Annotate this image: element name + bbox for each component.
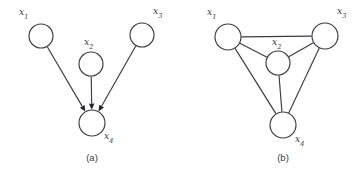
panel-b: x1x2x3x4(b) — [207, 5, 346, 163]
edge-x3-x4 — [289, 48, 320, 113]
edge-x3-x4 — [102, 46, 136, 106]
node-label-x1: x1 — [207, 6, 216, 21]
node-label-x2: x2 — [272, 36, 281, 51]
edge-x2-x3 — [289, 43, 314, 57]
edge-x1-x4 — [47, 47, 82, 106]
edge-x2-x4 — [279, 75, 282, 111]
node-x4 — [270, 112, 296, 138]
node-x2 — [266, 51, 290, 75]
edge-x1-x2 — [240, 43, 267, 57]
node-x1 — [29, 24, 53, 48]
panel-a-caption: (a) — [86, 152, 98, 163]
node-label-x2: x2 — [84, 36, 93, 51]
graph-figure-svg: x1x2x3x4(a)x1x2x3x4(b) — [0, 0, 364, 176]
node-x3 — [130, 23, 154, 47]
panel-b-caption: (b) — [277, 152, 289, 163]
node-x2 — [79, 52, 103, 76]
panel-a: x1x2x3x4(a) — [19, 5, 162, 163]
figure-container: x1x2x3x4(a)x1x2x3x4(b) — [0, 0, 364, 176]
arrowhead-x1-x4 — [80, 105, 85, 112]
node-x4 — [79, 110, 105, 136]
node-label-x3: x3 — [337, 5, 346, 20]
node-label-x4: x4 — [295, 133, 304, 148]
node-label-x4: x4 — [104, 130, 113, 145]
node-label-x1: x1 — [19, 6, 28, 21]
node-x3 — [312, 23, 338, 49]
arrowhead-x2-x4 — [89, 104, 94, 110]
node-x1 — [215, 24, 241, 50]
arrowhead-x3-x4 — [99, 105, 104, 112]
node-label-x3: x3 — [153, 5, 162, 20]
